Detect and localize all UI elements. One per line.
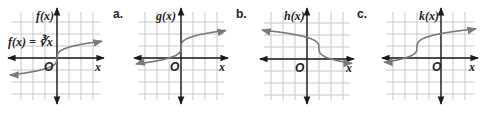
grid [386,12,474,100]
graph-f-function-label: f(x) [36,9,54,23]
grid [12,12,100,100]
graph-h-origin-label: O [295,61,305,75]
graph-f-x-label: x [94,60,101,74]
graph-g-origin-label: O [170,60,180,74]
graph-k-x-label: x [468,60,475,74]
graph-g-function-label: g(x) [155,9,176,23]
graph-k-origin-label: O [432,60,442,74]
graphs-canvas: f(x) f(x) = ∛x O x g(x) O x h(x) O x k(x… [0,0,488,114]
graph-g-x-label: x [218,60,225,74]
graph-h [260,8,354,104]
graph-h-function-label: h(x) [284,9,305,23]
graph-f [8,8,104,104]
graph-h-x-label: x [345,61,352,75]
graph-f-origin-label: O [44,60,54,74]
graph-k-function-label: k(x) [419,9,439,23]
graph-f-equation-label: f(x) = ∛x [8,34,53,49]
graph-g [134,8,228,104]
